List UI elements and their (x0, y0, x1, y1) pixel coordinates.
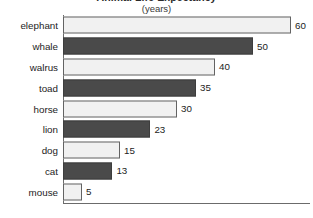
value-label-horse: 30 (181, 103, 192, 114)
bar-mouse (63, 183, 82, 200)
value-label-lion: 23 (154, 124, 165, 135)
bar-lion (63, 121, 150, 138)
bar-row: cat13 (0, 161, 313, 182)
value-label-dog: 15 (124, 145, 135, 156)
value-label-cat: 13 (116, 165, 127, 176)
bar-row: lion23 (0, 119, 313, 140)
bar-dog (63, 142, 120, 159)
bar-walrus (63, 58, 215, 75)
category-label-mouse: mouse (29, 186, 58, 197)
bar-row: walrus40 (0, 57, 313, 78)
bar-row: whale50 (0, 36, 313, 57)
value-label-mouse: 5 (86, 186, 91, 197)
bar-cat (63, 162, 112, 179)
bar-row: elephant60 (0, 15, 313, 36)
bar-elephant (63, 17, 291, 34)
bar-toad (63, 79, 196, 96)
bar-chart: Animal Life Expectancy (years) elephant6… (0, 0, 313, 218)
plot-area: elephant60whale50walrus40toad35horse30li… (0, 15, 313, 203)
bar-horse (63, 100, 177, 117)
bar-row: horse30 (0, 98, 313, 119)
category-label-lion: lion (43, 124, 58, 135)
category-label-whale: whale (32, 41, 58, 52)
value-label-walrus: 40 (219, 61, 230, 72)
bar-row: dog15 (0, 140, 313, 161)
bar-row: toad35 (0, 77, 313, 98)
category-label-cat: cat (45, 165, 58, 176)
value-label-elephant: 60 (295, 20, 306, 31)
category-label-dog: dog (42, 145, 58, 156)
chart-subtitle: (years) (0, 3, 313, 14)
category-label-horse: horse (33, 103, 58, 114)
category-label-toad: toad (39, 82, 58, 93)
bar-whale (63, 38, 253, 55)
value-label-toad: 35 (200, 82, 211, 93)
category-label-elephant: elephant (20, 20, 58, 31)
category-label-walrus: walrus (30, 61, 58, 72)
value-label-whale: 50 (257, 41, 268, 52)
bar-row: mouse5 (0, 181, 313, 202)
axis-baseline (63, 203, 310, 204)
